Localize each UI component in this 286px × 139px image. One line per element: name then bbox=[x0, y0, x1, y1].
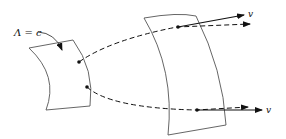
vector-label-top: v bbox=[248, 9, 253, 19]
surface-large bbox=[144, 14, 226, 135]
label-pointer bbox=[38, 32, 62, 50]
surface-label: Λ = c bbox=[13, 27, 42, 38]
surface-small bbox=[29, 40, 91, 110]
flow-line-bottom bbox=[87, 87, 248, 110]
flow-line-top bbox=[79, 24, 250, 62]
diagram: Λ = c v v bbox=[0, 0, 286, 139]
vector-label-bottom: v bbox=[266, 105, 271, 115]
